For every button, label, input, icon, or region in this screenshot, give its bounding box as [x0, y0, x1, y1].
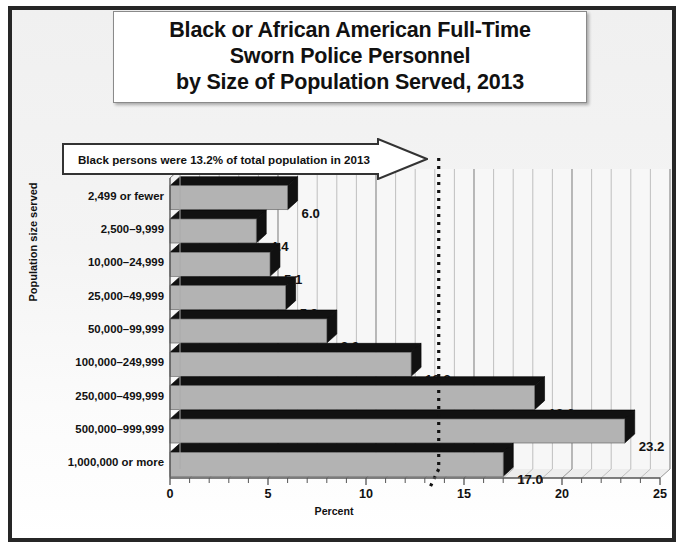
x-tick-label: 0: [150, 487, 190, 501]
value-label: 18.6: [549, 406, 575, 421]
value-label: 17.0: [517, 472, 543, 487]
x-tick-label: 25: [640, 487, 680, 501]
category-label: 100,000–249,999: [14, 356, 164, 368]
title-line-1: Black or African American Full-Time: [118, 18, 582, 44]
value-label: 23.2: [639, 439, 665, 454]
value-label: 5.9: [300, 306, 318, 321]
callout-text: Black persons were 13.2% of total popula…: [78, 138, 370, 180]
value-label: 8.0: [341, 339, 359, 354]
value-label: 6.0: [302, 206, 320, 221]
x-axis-title: Percent: [0, 505, 668, 517]
value-label: 4.4: [270, 239, 288, 254]
value-label: 5.1: [284, 272, 302, 287]
category-label: 500,000–999,999: [14, 423, 164, 435]
title-line-3: by Size of Population Served, 2013: [118, 70, 582, 96]
category-label: 25,000–49,999: [14, 290, 164, 302]
value-label: 12.3: [425, 372, 451, 387]
x-tick-label: 5: [248, 487, 288, 501]
category-label: 2,499 or fewer: [14, 190, 164, 202]
category-label: 1,000,000 or more: [14, 456, 164, 468]
chart-title: Black or African American Full-Time Swor…: [113, 11, 587, 103]
x-tick-label: 20: [542, 487, 582, 501]
title-line-2: Sworn Police Personnel: [118, 44, 582, 70]
chart-figure: Population size served 2,499 or fewer2,5…: [0, 0, 686, 556]
category-label: 2,500–9,999: [14, 223, 164, 235]
x-tick-label: 10: [346, 487, 386, 501]
callout-annotation: Black persons were 13.2% of total popula…: [62, 138, 428, 180]
x-tick-label: 15: [444, 487, 484, 501]
category-label: 250,000–499,999: [14, 390, 164, 402]
category-label: 10,000–24,999: [14, 256, 164, 268]
category-label: 50,000–99,999: [14, 323, 164, 335]
